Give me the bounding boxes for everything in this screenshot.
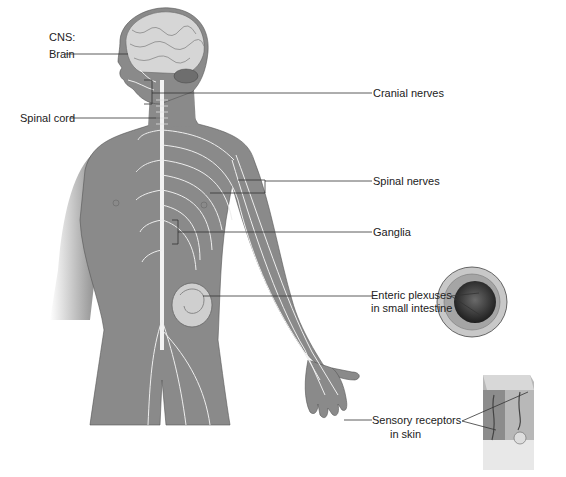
skin-block <box>483 375 534 470</box>
ganglia-label: Ganglia <box>373 226 411 239</box>
spinal-cord-label: Spinal cord <box>20 112 75 125</box>
sensory-receptors-label-line2: in skin <box>390 428 421 441</box>
cranial-nerves-label: Cranial nerves <box>373 87 444 100</box>
cns-label: CNS: <box>49 31 75 44</box>
nervous-system-diagram: CNS: Brain Spinal cord Cranial nerves Sp… <box>0 0 566 477</box>
cerebellum <box>174 69 198 83</box>
spinal-nerves-label: Spinal nerves <box>373 175 440 188</box>
enteric-plexuses-label: Enteric plexuses <box>371 289 452 302</box>
hand <box>305 360 347 418</box>
body-illustration <box>0 0 566 477</box>
enteric-plexuses-label-line2: in small intestine <box>371 302 452 315</box>
small-intestine <box>172 283 212 327</box>
brain-label: Brain <box>49 48 75 61</box>
sensory-receptors-label: Sensory receptors <box>372 414 461 427</box>
